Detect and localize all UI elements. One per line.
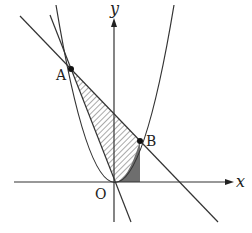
point-A <box>68 66 74 72</box>
origin-label: O <box>95 186 106 202</box>
x-axis-label: x <box>236 172 245 191</box>
point-A-label: A <box>55 67 67 83</box>
y-axis-arrow-icon <box>111 18 117 27</box>
point-B-label: B <box>146 133 156 149</box>
point-B <box>137 138 143 144</box>
graph: A B O x y <box>0 0 252 233</box>
y-axis-label: y <box>109 0 120 18</box>
x-axis-arrow-icon <box>225 179 234 185</box>
